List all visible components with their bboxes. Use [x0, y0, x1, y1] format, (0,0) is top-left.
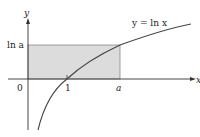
shaded-rectangle	[28, 45, 120, 79]
ln-a-label: ln a	[7, 40, 25, 50]
one-label: 1	[65, 83, 71, 93]
curve-label: y = ln x	[131, 18, 167, 28]
y-axis-arrow-icon	[26, 18, 30, 24]
ln-graph: y x 0 1 a ln a y = ln x	[0, 0, 200, 137]
x-axis-label: x	[196, 75, 200, 85]
origin-label: 0	[17, 83, 23, 93]
y-axis-label: y	[23, 8, 30, 18]
a-label: a	[116, 83, 121, 93]
